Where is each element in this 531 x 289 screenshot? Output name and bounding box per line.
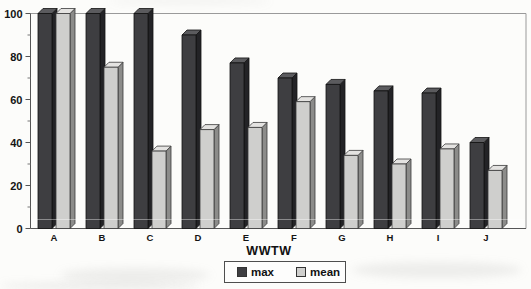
legend-label-max: max (251, 266, 274, 278)
bar-max-A (38, 14, 52, 229)
bar-side-mean-I (454, 144, 459, 229)
legend-swatch-max-icon (237, 267, 247, 277)
bar-mean-B (104, 67, 118, 228)
y-tick-label: 40 (10, 137, 22, 149)
x-category-label: D (195, 232, 202, 243)
legend: max mean (224, 261, 346, 283)
x-category-label: J (483, 232, 488, 243)
x-category-label: H (387, 232, 394, 243)
bar-side-mean-D (214, 125, 219, 229)
bar-max-F (278, 78, 292, 229)
bar-mean-I (440, 149, 454, 229)
bar-side-mean-B (118, 62, 123, 228)
chart-figure: 020406080100ABCDEFGHIJ WWTW max mean (0, 0, 531, 289)
legend-swatch-mean-icon (296, 267, 306, 277)
x-category-label: I (437, 232, 440, 243)
bar-side-mean-H (406, 159, 411, 229)
bar-max-B (86, 14, 100, 229)
bar-mean-D (200, 130, 214, 229)
bar-side-mean-E (262, 122, 267, 228)
x-category-label: E (243, 232, 249, 243)
bar-side-mean-C (166, 146, 171, 228)
bar-mean-H (392, 164, 406, 229)
x-axis-title: WWTW (169, 244, 369, 258)
bar-side-mean-G (358, 150, 363, 228)
bar-side-mean-F (310, 97, 315, 229)
bar-mean-E (248, 127, 262, 228)
bar-mean-C (152, 151, 166, 228)
y-tick-label: 80 (10, 51, 22, 63)
bar-max-D (182, 35, 196, 229)
x-category-label: C (147, 232, 154, 243)
legend-item-mean: mean (296, 266, 340, 278)
legend-item-max: max (237, 266, 274, 278)
y-tick-label: 0 (16, 223, 22, 235)
legend-label-mean: mean (310, 266, 340, 278)
x-category-label: F (291, 232, 297, 243)
bar-max-I (422, 93, 436, 228)
bar-side-mean-A (70, 9, 75, 229)
x-category-label: G (338, 232, 345, 243)
y-tick-label: 60 (10, 94, 22, 106)
bar-max-E (230, 63, 244, 229)
bar-max-H (374, 91, 388, 229)
y-tick-label: 100 (4, 8, 22, 20)
x-category-label: B (99, 232, 106, 243)
bar-max-C (134, 14, 148, 229)
x-category-label: A (51, 232, 58, 243)
bar-mean-G (344, 155, 358, 228)
bar-mean-F (296, 102, 310, 229)
bar-max-G (326, 84, 340, 228)
y-tick-label: 20 (10, 180, 22, 192)
bar-mean-A (56, 14, 70, 229)
bar-max-J (470, 143, 484, 229)
